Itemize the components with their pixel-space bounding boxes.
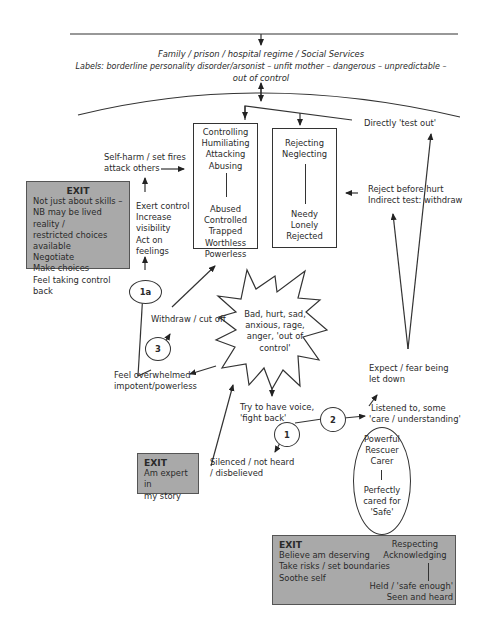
step-circle-1a: 1a — [129, 280, 162, 304]
labels-text: Labels: borderline personality disorder/… — [60, 61, 462, 72]
exit-title: EXIT — [33, 185, 123, 196]
step-circle-3: 3 — [145, 337, 171, 361]
rejecting-box: Rejecting Neglecting Needy Lonely Reject… — [272, 128, 337, 248]
care-understanding-label: 'care / understanding' — [369, 414, 461, 425]
step-circle-1: 1 — [274, 422, 300, 447]
divider — [428, 563, 429, 581]
step-circle-2: 2 — [320, 407, 346, 432]
let-down-label: let down — [369, 374, 405, 385]
try-voice-label: Try to have voice, — [240, 402, 314, 413]
attack-others-label: attack others — [104, 163, 160, 174]
rescuer-ellipse-top: Powerful Rescuer Carer — [353, 434, 411, 468]
labels-text-cont: out of control — [60, 73, 462, 84]
listened-label: Listened to, some — [371, 403, 446, 414]
exit-box-left: EXIT Not just about skills – NB may be l… — [26, 181, 130, 269]
exit-box-middle: EXIT Am expert in my story — [137, 453, 199, 494]
emotion-burst-text: Bad, hurt, sad, anxious, rage, anger, 'o… — [240, 309, 310, 354]
reject-before-hurt-label: Reject before hurt — [368, 184, 444, 195]
self-harm-label: Self-harm / set fires — [104, 152, 186, 163]
disbelieved-label: / disbelieved — [210, 468, 263, 479]
context-label: Family / prison / hospital regime / Soci… — [60, 49, 462, 60]
feel-overwhelmed-label: Feel overwhelmed — [114, 370, 191, 381]
expect-fear-label: Expect / fear being — [369, 363, 449, 374]
controlling-bottom: Abused Controlled Trapped Worthless Powe… — [194, 204, 257, 260]
exit-bottom-right-top: Respecting Acknowledging — [379, 539, 451, 561]
exit-title: EXIT — [144, 457, 192, 468]
controlling-box: Controlling Humiliating Attacking Abusin… — [193, 123, 258, 249]
withdraw-label: Withdraw / cut off — [151, 314, 226, 325]
rejecting-top: Rejecting Neglecting — [273, 138, 336, 160]
impotent-label: impotent/powerless — [114, 381, 197, 392]
exit-bottom-right-bottom: Held / 'safe enough' Seen and heard — [369, 581, 453, 603]
fight-back-label: 'fight back' — [240, 413, 286, 424]
silenced-label: Silenced / not heard — [210, 457, 294, 468]
exit-box-bottom: EXIT Believe am deserving Take risks / s… — [272, 535, 456, 605]
divider — [226, 173, 227, 197]
exert-control-label: Exert control Increase visibility Act on… — [136, 201, 190, 257]
directly-test-out-label: Directly 'test out' — [364, 118, 436, 129]
indirect-test-label: Indirect test: withdraw — [368, 195, 462, 206]
rejecting-bottom: Needy Lonely Rejected — [273, 209, 336, 243]
controlling-top: Controlling Humiliating Attacking Abusin… — [194, 127, 257, 172]
divider — [305, 164, 306, 204]
rescuer-ellipse-bottom: Perfectly cared for 'Safe' — [353, 485, 411, 519]
divider — [381, 470, 382, 480]
boundary-arc — [78, 93, 460, 117]
